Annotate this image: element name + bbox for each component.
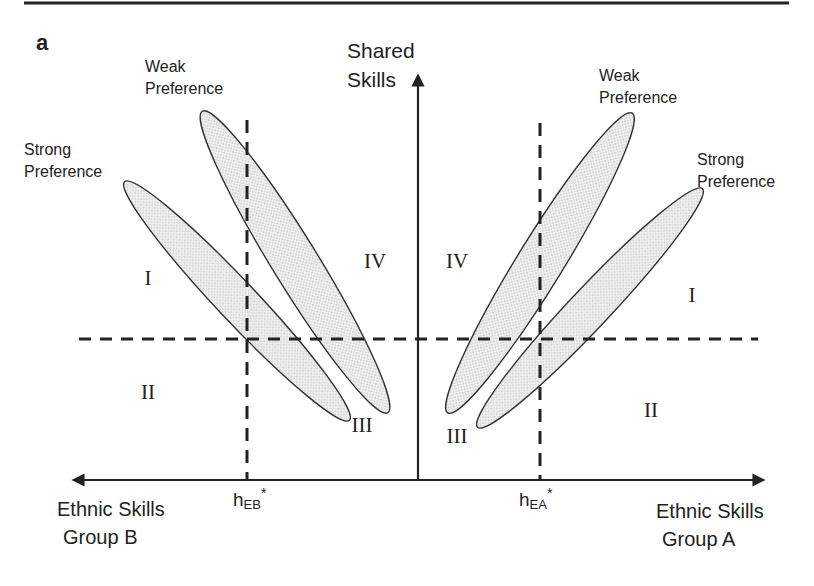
left-quadrant-III: III xyxy=(352,413,373,437)
right-quadrant-IV: IV xyxy=(446,249,468,273)
right-strong-label-line1: Strong xyxy=(697,151,744,168)
left-strong-label-line2: Preference xyxy=(24,163,102,180)
threshold-label-heb: hEB* xyxy=(233,485,267,512)
left-weak-label-line2: Preference xyxy=(145,80,223,97)
x-right-label-line1: Ethnic Skills xyxy=(656,500,764,522)
heb-base: h xyxy=(233,489,244,510)
x-right-label-line2: Group A xyxy=(662,528,736,550)
heb-sub: EB xyxy=(244,497,261,512)
right-weak-label-line2: Preference xyxy=(599,89,677,106)
hea-sub: EA xyxy=(530,497,548,512)
left-strong-label-line1: Strong xyxy=(24,141,71,158)
right-quadrant-II: II xyxy=(644,398,658,422)
threshold-label-hea: hEA* xyxy=(519,485,553,512)
left-quadrant-IV: IV xyxy=(364,249,386,273)
right-strong-label-line2: Preference xyxy=(697,173,775,190)
y-axis-label-line2: Skills xyxy=(347,68,396,91)
hea-sup: * xyxy=(547,485,553,501)
left-weak-label-line1: Weak xyxy=(145,58,187,75)
panel-label: a xyxy=(36,30,49,55)
right-weak-label-line1: Weak xyxy=(599,67,641,84)
diagram: a Shared Skills Weak Preference Strong P… xyxy=(0,0,814,586)
y-axis-label-line1: Shared xyxy=(347,39,415,62)
right-quadrant-I: I xyxy=(689,283,696,307)
x-left-label-line2: Group B xyxy=(63,526,137,548)
x-left-label-line1: Ethnic Skills xyxy=(57,498,165,520)
left-quadrant-I: I xyxy=(145,266,152,290)
right-quadrant-III: III xyxy=(447,424,468,448)
heb-sup: * xyxy=(261,485,267,501)
hea-base: h xyxy=(519,489,530,510)
left-quadrant-II: II xyxy=(141,380,155,404)
